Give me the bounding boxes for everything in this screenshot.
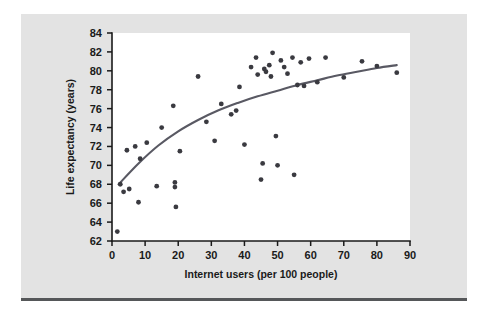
data-point — [138, 156, 143, 161]
data-point — [374, 64, 379, 69]
data-point — [315, 80, 320, 85]
data-point — [204, 119, 209, 124]
scatter-chart: 626466687072747678808284 010203040506070… — [0, 0, 488, 323]
data-point — [267, 63, 272, 68]
x-tick-label: 20 — [172, 249, 184, 261]
x-axis-title: Internet users (per 100 people) — [185, 268, 338, 280]
data-point — [136, 200, 141, 205]
data-point — [274, 134, 279, 139]
data-point — [323, 55, 328, 60]
data-point — [234, 108, 239, 113]
data-point — [278, 58, 283, 63]
y-tick-label: 62 — [90, 235, 102, 247]
data-point — [260, 161, 265, 166]
data-point — [196, 74, 201, 79]
data-point — [259, 177, 264, 182]
y-tick-label: 68 — [90, 178, 102, 190]
x-tick-label: 50 — [271, 249, 283, 261]
data-point — [173, 185, 178, 190]
data-point — [254, 55, 259, 60]
data-point — [174, 205, 179, 210]
figure-root: 626466687072747678808284 010203040506070… — [0, 0, 488, 323]
x-tick-label: 60 — [305, 249, 317, 261]
data-point — [127, 187, 132, 192]
data-point — [290, 55, 295, 60]
y-axis-title: Life expectancy (years) — [64, 79, 76, 195]
data-point — [118, 182, 123, 187]
x-tick-label: 30 — [205, 249, 217, 261]
data-point — [285, 71, 290, 76]
x-tick-label: 10 — [139, 249, 151, 261]
y-tick-label: 82 — [90, 46, 102, 58]
data-point — [341, 75, 346, 80]
data-point — [115, 229, 120, 234]
data-point — [125, 148, 130, 153]
data-point — [133, 144, 138, 149]
y-tick-label: 76 — [90, 103, 102, 115]
y-axis-tick-labels: 626466687072747678808284 — [90, 27, 103, 247]
y-tick-label: 74 — [90, 122, 103, 134]
x-tick-label: 80 — [371, 249, 383, 261]
y-tick-label: 78 — [90, 84, 102, 96]
data-point — [177, 149, 182, 154]
y-tick-label: 70 — [90, 159, 102, 171]
data-point — [237, 84, 242, 89]
data-point — [154, 184, 159, 189]
x-tick-label: 70 — [338, 249, 350, 261]
y-tick-label: 84 — [90, 27, 103, 39]
data-point — [269, 74, 274, 79]
data-point — [249, 65, 254, 70]
x-tick-label: 40 — [238, 249, 250, 261]
data-points — [115, 50, 399, 234]
x-axis-tick-labels: 0102030405060708090 — [109, 249, 416, 261]
data-point — [360, 59, 365, 64]
y-tick-label: 64 — [90, 216, 103, 228]
data-point — [307, 56, 312, 61]
y-tick-label: 72 — [90, 140, 102, 152]
data-point — [295, 83, 300, 88]
data-point — [270, 50, 275, 55]
data-point — [229, 112, 234, 117]
data-point — [219, 102, 224, 107]
data-point — [282, 65, 287, 70]
data-point — [292, 172, 297, 177]
data-point — [121, 189, 126, 194]
data-point — [298, 60, 303, 65]
data-point — [275, 163, 280, 168]
trend-curve — [119, 65, 397, 184]
data-point — [173, 180, 178, 185]
data-point — [242, 142, 247, 147]
data-point — [255, 72, 260, 77]
data-point — [159, 125, 164, 130]
data-point — [212, 138, 217, 143]
data-point — [171, 103, 176, 108]
data-point — [144, 140, 149, 145]
y-tick-label: 80 — [90, 65, 102, 77]
x-tick-label: 90 — [404, 249, 416, 261]
data-point — [394, 70, 399, 75]
x-tick-label: 0 — [109, 249, 115, 261]
data-point — [264, 69, 269, 74]
data-point — [302, 84, 307, 89]
y-tick-label: 66 — [90, 197, 102, 209]
